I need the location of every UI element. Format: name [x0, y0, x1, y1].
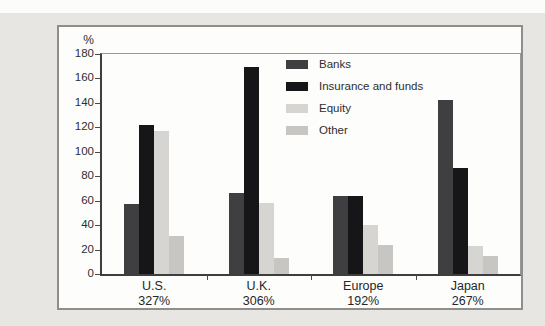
x-label-europe: Europe192%	[311, 279, 416, 309]
y-tick-label-40: 40	[60, 218, 94, 231]
legend-label-other: Other	[319, 124, 348, 136]
legend-item-equity: Equity	[286, 101, 423, 115]
bar-group-u-s	[102, 54, 207, 274]
page-top-strip	[0, 0, 545, 13]
y-tick-label-120: 120	[60, 120, 94, 133]
bar-banks-u-k	[229, 193, 244, 274]
y-tick-label-60: 60	[60, 194, 94, 207]
y-tick-mark-160	[95, 78, 100, 79]
y-tick-label-80: 80	[60, 169, 94, 182]
bar-group-japan	[416, 54, 521, 274]
bar-equity-japan	[468, 246, 483, 274]
y-tick-label-160: 160	[60, 71, 94, 84]
y-axis-unit-label: %	[61, 33, 94, 47]
bar-banks-europe	[333, 196, 348, 274]
y-tick-label-180: 180	[60, 47, 94, 60]
category-name-u-s: U.S.	[102, 279, 207, 294]
y-tick-mark-80	[95, 176, 100, 177]
plot-area: BanksInsurance and fundsEquityOther	[100, 53, 521, 276]
x-label-u-k: U.K.306%	[207, 279, 312, 309]
category-name-japan: Japan	[416, 279, 521, 294]
bar-insurance-and-funds-japan	[453, 168, 468, 274]
x-tick-1	[207, 275, 208, 280]
category-total-europe: 192%	[311, 294, 416, 309]
legend-swatch-equity	[286, 104, 308, 113]
bar-other-japan	[483, 256, 498, 274]
bar-other-u-k	[274, 258, 289, 274]
bar-banks-japan	[438, 100, 453, 274]
category-name-europe: Europe	[311, 279, 416, 294]
legend-swatch-banks	[286, 60, 308, 69]
bar-equity-u-k	[259, 203, 274, 274]
legend-label-banks: Banks	[319, 58, 351, 70]
x-label-japan: Japan267%	[416, 279, 521, 309]
y-tick-label-0: 0	[60, 267, 94, 280]
bar-other-europe	[378, 245, 393, 274]
chart-box: % BanksInsurance and fundsEquityOther U.…	[57, 25, 523, 310]
bar-banks-u-s	[124, 204, 139, 274]
x-tick-3	[416, 275, 417, 280]
x-axis-labels: U.S.327%U.K.306%Europe192%Japan267%	[102, 279, 520, 309]
y-tick-label-20: 20	[60, 243, 94, 256]
category-total-japan: 267%	[416, 294, 521, 309]
x-tick-2	[311, 275, 312, 280]
y-tick-mark-20	[95, 250, 100, 251]
legend-swatch-other	[286, 126, 308, 135]
legend-item-banks: Banks	[286, 57, 423, 71]
bar-other-u-s	[169, 236, 184, 274]
y-tick-label-100: 100	[60, 145, 94, 158]
legend-item-insurance-and-funds: Insurance and funds	[286, 79, 423, 93]
x-label-u-s: U.S.327%	[102, 279, 207, 309]
legend-label-equity: Equity	[319, 102, 351, 114]
category-total-u-k: 306%	[207, 294, 312, 309]
bar-insurance-and-funds-u-s	[139, 125, 154, 274]
y-tick-mark-40	[95, 225, 100, 226]
y-tick-mark-0	[95, 274, 100, 275]
bar-insurance-and-funds-u-k	[244, 67, 259, 274]
y-tick-mark-60	[95, 201, 100, 202]
legend-item-other: Other	[286, 123, 423, 137]
category-total-u-s: 327%	[102, 294, 207, 309]
category-name-u-k: U.K.	[207, 279, 312, 294]
bar-equity-europe	[363, 225, 378, 274]
legend-label-insurance-and-funds: Insurance and funds	[319, 80, 423, 92]
bar-insurance-and-funds-europe	[348, 196, 363, 274]
legend: BanksInsurance and fundsEquityOther	[286, 57, 423, 145]
y-tick-mark-100	[95, 152, 100, 153]
y-tick-mark-140	[95, 103, 100, 104]
y-tick-mark-120	[95, 127, 100, 128]
y-tick-label-140: 140	[60, 96, 94, 109]
legend-swatch-insurance-and-funds	[286, 82, 308, 91]
y-tick-mark-180	[95, 54, 100, 55]
bar-equity-u-s	[154, 131, 169, 274]
